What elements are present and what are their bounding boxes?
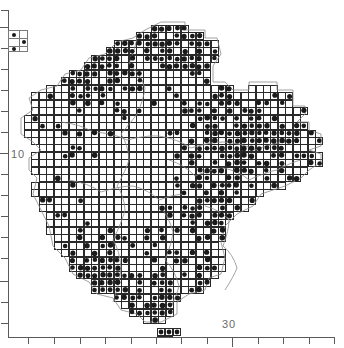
distribution-map-figure: 10 30 <box>0 0 344 348</box>
y-tick-minor <box>1 132 8 133</box>
x-axis-line <box>8 337 335 338</box>
y-tick-minor <box>1 258 8 259</box>
x-tick-minor <box>283 338 284 344</box>
y-tick-major <box>0 27 9 28</box>
y-tick-minor <box>1 90 8 91</box>
x-tick-minor <box>334 338 335 344</box>
y-tick-major <box>0 281 9 282</box>
y-tick-minor <box>1 69 8 70</box>
y-tick-minor <box>1 302 8 303</box>
y-tick-major <box>0 153 9 154</box>
x-tick-minor <box>309 338 310 344</box>
x-tick-major <box>232 338 233 347</box>
x-tick-minor <box>131 338 132 344</box>
y-tick-minor <box>1 323 8 324</box>
x-tick-minor <box>105 338 106 344</box>
x-tick-minor <box>207 338 208 344</box>
x-tick-minor <box>54 338 55 344</box>
x-tick-minor <box>28 338 29 344</box>
y-tick-minor <box>1 111 8 112</box>
x-tick-minor <box>181 338 182 344</box>
y-tick-minor <box>1 237 8 238</box>
x-tick-minor <box>80 338 81 344</box>
x-tick-minor <box>156 338 157 344</box>
plot-area <box>9 10 335 337</box>
x-tick-minor <box>258 338 259 344</box>
y-tick-minor <box>1 10 8 11</box>
y-tick-minor <box>1 174 8 175</box>
y-tick-minor <box>1 216 8 217</box>
y-tick-minor <box>1 48 8 49</box>
y-tick-minor <box>1 195 8 196</box>
grid-map-canvas <box>9 10 335 337</box>
